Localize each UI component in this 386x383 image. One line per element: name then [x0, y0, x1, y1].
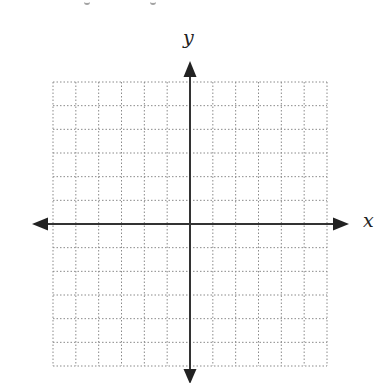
y-axis-down-arrow-icon [184, 369, 197, 383]
coordinate-plane [0, 0, 386, 383]
x-axis-label: x [363, 211, 374, 230]
x-axis-left-arrow-icon [32, 218, 48, 231]
x-axis-right-arrow-icon [333, 218, 349, 231]
y-axis [184, 61, 197, 383]
y-axis-label: y [183, 28, 194, 47]
y-axis-up-arrow-icon [184, 61, 197, 77]
